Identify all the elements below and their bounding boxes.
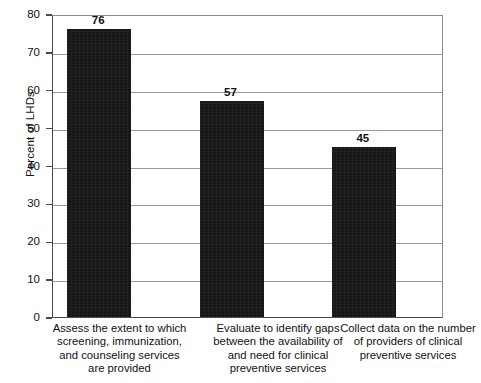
bar	[332, 147, 396, 317]
y-tick-label: 20	[8, 236, 40, 248]
plot-area	[52, 15, 443, 318]
x-axis-caption-line: and counseling services	[32, 349, 207, 362]
x-axis-caption-line: preventive services	[203, 362, 353, 375]
bar-value-label: 57	[199, 87, 263, 99]
y-tick-label: 60	[8, 85, 40, 97]
x-axis-caption-line: between the availability of	[203, 335, 353, 348]
y-tick-label: 80	[8, 9, 40, 21]
x-axis-caption: Evaluate to identify gapsbetween the ava…	[203, 322, 353, 376]
x-axis-caption-line: Collect data on the number	[333, 322, 481, 335]
bar	[67, 29, 131, 317]
y-tick-label: 40	[8, 161, 40, 173]
x-axis-caption: Collect data on the numberof providers o…	[333, 322, 481, 362]
bar-value-label: 45	[331, 133, 395, 145]
x-axis-caption-line: and need for clinical	[203, 349, 353, 362]
x-axis-caption-line: screening, immunization,	[32, 335, 207, 348]
y-tick-label: 50	[8, 123, 40, 135]
y-tick-label: 10	[8, 274, 40, 286]
x-axis-caption-line: are provided	[32, 362, 207, 375]
y-tick-label: 70	[8, 47, 40, 59]
y-tick-label: 30	[8, 198, 40, 210]
x-axis-caption-line: of providers of clinical	[333, 335, 481, 348]
bar-value-label: 76	[66, 15, 130, 27]
x-axis-caption-line: preventive services	[333, 349, 481, 362]
x-axis-caption: Assess the extent to whichscreening, imm…	[32, 322, 207, 376]
bar	[200, 101, 264, 317]
x-axis-caption-line: Assess the extent to which	[32, 322, 207, 335]
x-axis-caption-line: Evaluate to identify gaps	[203, 322, 353, 335]
